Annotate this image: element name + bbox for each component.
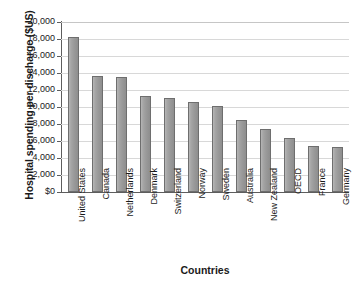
gridline: [61, 141, 349, 142]
x-axis-tick-label: United States: [77, 168, 87, 258]
y-axis-tick: [57, 56, 61, 57]
gridline: [61, 158, 349, 159]
y-axis-tick: [57, 192, 61, 193]
y-axis-tick-label: $0: [1, 186, 55, 196]
y-axis-tick-label: 8,000: [1, 118, 55, 128]
y-axis-tick: [57, 22, 61, 23]
y-axis-tick-label: 16,000: [1, 50, 55, 60]
gridline: [61, 56, 349, 57]
y-axis-tick-label: 10,000: [1, 101, 55, 111]
x-axis-tick-label: Switzerland: [173, 168, 183, 258]
y-axis-tick-label: 6,000: [1, 135, 55, 145]
x-axis-tick-label: France: [317, 168, 327, 258]
x-axis-tick-label: Australia: [245, 168, 255, 258]
y-axis-tick: [57, 107, 61, 108]
gridline: [61, 90, 349, 91]
plot-area: [61, 22, 349, 192]
gridline: [61, 39, 349, 40]
x-axis-tick-label: OECD: [293, 168, 303, 258]
x-axis-tick-label: New Zealand: [269, 168, 279, 258]
x-axis-tick-label: Germany: [341, 168, 351, 258]
y-axis-tick: [57, 141, 61, 142]
y-axis-tick: [57, 39, 61, 40]
y-axis-tick-label: 20,000: [1, 16, 55, 26]
gridline: [61, 73, 349, 74]
y-axis-tick: [57, 175, 61, 176]
y-axis-tick: [57, 124, 61, 125]
gridline: [61, 124, 349, 125]
x-axis-title: Countries: [61, 264, 349, 276]
y-axis-tick-label: 12,000: [1, 84, 55, 94]
x-axis-tick-label: Sweden: [221, 168, 231, 258]
gridline: [61, 22, 349, 23]
y-axis-tick-label: 14,000: [1, 67, 55, 77]
y-axis-tick: [57, 158, 61, 159]
y-axis-tick-labels: $02,0004,0006,0008,00010,00012,00014,000…: [0, 0, 55, 289]
gridline: [61, 107, 349, 108]
chart-screenshot: Hospital spending per discharge ($US) $0…: [0, 0, 359, 289]
x-axis-tick-label: Canada: [101, 168, 111, 258]
x-axis-tick-label: Denmark: [149, 168, 159, 258]
y-axis-tick: [57, 90, 61, 91]
y-axis-tick-label: 18,000: [1, 33, 55, 43]
x-axis-tick-label: Norway: [197, 168, 207, 258]
y-axis-tick-label: 2,000: [1, 169, 55, 179]
y-axis-tick: [57, 73, 61, 74]
y-axis-tick-label: 4,000: [1, 152, 55, 162]
x-axis-tick-label: Netherlands: [125, 168, 135, 258]
